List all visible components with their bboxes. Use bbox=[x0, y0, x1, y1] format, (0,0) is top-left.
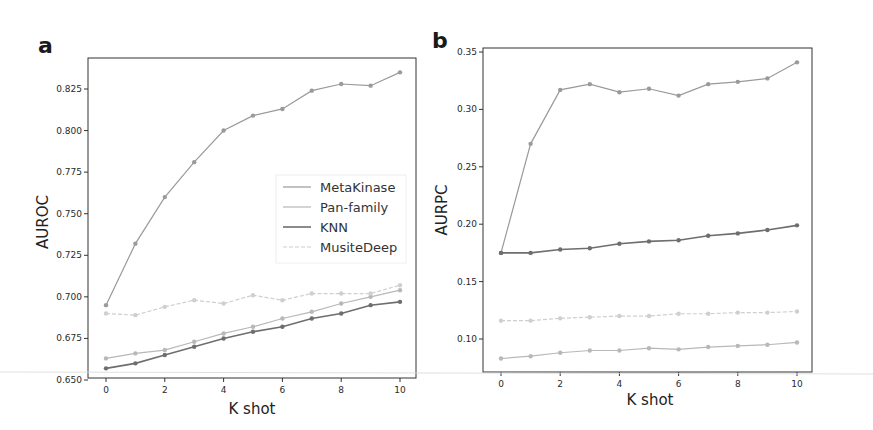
data-point-marker bbox=[398, 70, 402, 74]
y-tick-label: 0.30 bbox=[457, 104, 477, 114]
data-point-marker bbox=[280, 107, 284, 111]
data-point-marker bbox=[192, 298, 196, 302]
y-tick-label: 0.25 bbox=[457, 162, 477, 172]
data-point-marker bbox=[706, 82, 710, 86]
legend-label-pan-family: Pan-family bbox=[320, 200, 389, 215]
data-point-marker bbox=[221, 128, 225, 132]
data-point-marker bbox=[528, 142, 532, 146]
data-point-marker bbox=[617, 242, 621, 246]
y-tick-label: 0.825 bbox=[56, 84, 82, 94]
data-point-marker bbox=[736, 310, 740, 314]
data-point-marker bbox=[133, 351, 137, 355]
data-point-marker bbox=[647, 87, 651, 91]
data-point-marker bbox=[133, 313, 137, 317]
panel-b-series bbox=[499, 60, 799, 361]
data-point-marker bbox=[765, 228, 769, 232]
panel-b-y-label: AURPC bbox=[433, 184, 451, 235]
data-point-marker bbox=[558, 316, 562, 320]
data-point-marker bbox=[499, 356, 503, 360]
panel-a-y-axis: 0.6500.6750.7000.7250.7500.7750.8000.825 bbox=[56, 84, 88, 385]
data-point-marker bbox=[736, 344, 740, 348]
data-point-marker bbox=[588, 246, 592, 250]
data-point-marker bbox=[251, 113, 255, 117]
data-point-marker bbox=[192, 340, 196, 344]
panel-a-x-axis: 0246810 bbox=[103, 378, 406, 395]
x-tick-label: 0 bbox=[498, 379, 504, 389]
data-point-marker bbox=[676, 238, 680, 242]
data-point-marker bbox=[617, 90, 621, 94]
panel-b-y-axis: 0.100.150.200.250.300.35 bbox=[457, 47, 483, 344]
data-point-marker bbox=[192, 160, 196, 164]
data-point-marker bbox=[558, 247, 562, 251]
data-point-marker bbox=[310, 316, 314, 320]
data-point-marker bbox=[251, 293, 255, 297]
data-point-marker bbox=[221, 336, 225, 340]
series-line-pan-family bbox=[106, 290, 400, 358]
data-point-marker bbox=[647, 314, 651, 318]
data-point-marker bbox=[706, 345, 710, 349]
x-tick-label: 4 bbox=[221, 385, 227, 395]
legend-label-musitedeep: MusiteDeep bbox=[320, 240, 397, 255]
data-point-marker bbox=[251, 330, 255, 334]
series-line-knn bbox=[106, 302, 400, 369]
data-point-marker bbox=[706, 233, 710, 237]
data-point-marker bbox=[221, 331, 225, 335]
data-point-marker bbox=[280, 316, 284, 320]
data-point-marker bbox=[192, 345, 196, 349]
data-point-marker bbox=[617, 348, 621, 352]
data-point-marker bbox=[104, 356, 108, 360]
data-point-marker bbox=[280, 325, 284, 329]
data-point-marker bbox=[588, 82, 592, 86]
y-tick-label: 0.10 bbox=[457, 334, 477, 344]
x-tick-label: 2 bbox=[557, 379, 563, 389]
data-point-marker bbox=[251, 325, 255, 329]
data-point-marker bbox=[499, 318, 503, 322]
data-point-marker bbox=[617, 314, 621, 318]
x-tick-label: 8 bbox=[735, 379, 741, 389]
x-tick-label: 2 bbox=[162, 385, 168, 395]
y-tick-label: 0.15 bbox=[457, 277, 477, 287]
data-point-marker bbox=[398, 288, 402, 292]
data-point-marker bbox=[676, 93, 680, 97]
data-point-marker bbox=[163, 353, 167, 357]
data-point-marker bbox=[736, 80, 740, 84]
x-tick-label: 0 bbox=[103, 385, 109, 395]
data-point-marker bbox=[528, 318, 532, 322]
data-point-marker bbox=[133, 241, 137, 245]
data-point-marker bbox=[795, 340, 799, 344]
y-tick-label: 0.750 bbox=[56, 209, 82, 219]
data-point-marker bbox=[795, 60, 799, 64]
y-tick-label: 0.20 bbox=[457, 219, 477, 229]
data-point-marker bbox=[676, 312, 680, 316]
y-tick-label: 0.800 bbox=[56, 126, 82, 136]
data-point-marker bbox=[104, 311, 108, 315]
y-tick-label: 0.675 bbox=[56, 333, 82, 343]
data-point-marker bbox=[163, 305, 167, 309]
data-point-marker bbox=[647, 346, 651, 350]
data-point-marker bbox=[339, 82, 343, 86]
panel-a-chart: a 0.6500.6750.7000.7250.7500.7750.8000.8… bbox=[34, 33, 416, 418]
data-point-marker bbox=[368, 303, 372, 307]
x-tick-label: 4 bbox=[617, 379, 623, 389]
data-point-marker bbox=[676, 347, 680, 351]
series-line-pan-family bbox=[501, 342, 797, 358]
data-point-marker bbox=[398, 283, 402, 287]
data-point-marker bbox=[706, 312, 710, 316]
data-point-marker bbox=[339, 311, 343, 315]
y-tick-label: 0.700 bbox=[56, 292, 82, 302]
data-point-marker bbox=[499, 251, 503, 255]
data-point-marker bbox=[588, 315, 592, 319]
x-tick-label: 8 bbox=[338, 385, 344, 395]
data-point-marker bbox=[104, 303, 108, 307]
legend-label-metakinase: MetaKinase bbox=[320, 180, 395, 195]
data-point-marker bbox=[795, 223, 799, 227]
data-point-marker bbox=[765, 76, 769, 80]
data-point-marker bbox=[736, 231, 740, 235]
y-tick-label: 0.35 bbox=[457, 47, 477, 57]
series-line-knn bbox=[501, 225, 797, 253]
data-point-marker bbox=[221, 301, 225, 305]
data-point-marker bbox=[528, 354, 532, 358]
y-tick-label: 0.775 bbox=[56, 167, 82, 177]
data-point-marker bbox=[310, 88, 314, 92]
data-point-marker bbox=[558, 351, 562, 355]
